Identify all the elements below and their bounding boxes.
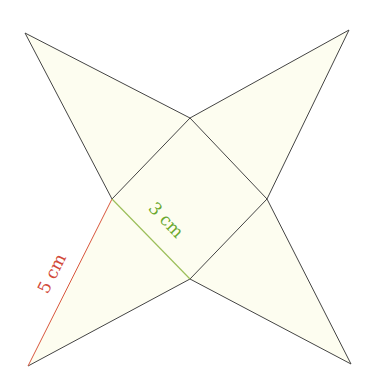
net-faces: [25, 30, 351, 366]
slant-edge-label: 5 cm: [33, 250, 70, 296]
pyramid-net-diagram: 3 cm 5 cm: [0, 0, 375, 384]
